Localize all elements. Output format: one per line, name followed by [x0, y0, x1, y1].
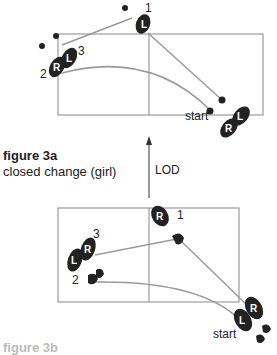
- step-label-3b: 3: [93, 227, 100, 241]
- svg-text:L: L: [71, 255, 77, 266]
- svg-text:R: R: [84, 244, 92, 255]
- step-label-1: 1: [145, 1, 152, 15]
- svg-text:R: R: [53, 62, 61, 73]
- figure-title: figure 3a: [3, 148, 57, 163]
- svg-text:R: R: [156, 211, 164, 222]
- figure-title-partial: figure 3b: [3, 340, 58, 355]
- foot-letter: L: [141, 19, 147, 30]
- start-label-a: start: [185, 109, 209, 123]
- figure-subtitle: closed change (girl): [3, 164, 116, 179]
- step-label-2: 2: [40, 67, 47, 81]
- svg-text:R: R: [225, 123, 233, 134]
- step-label-3: 3: [78, 44, 85, 58]
- svg-text:L: L: [239, 315, 245, 326]
- step-label-1b: 1: [177, 208, 184, 222]
- figure-3b-diagram: R R L R L 1 3 2 start: [58, 202, 271, 343]
- step-label-2b: 2: [72, 273, 79, 287]
- start-label-b: start: [213, 327, 237, 341]
- svg-text:R: R: [250, 303, 258, 314]
- svg-text:L: L: [66, 53, 72, 64]
- lod-label: LOD: [155, 163, 180, 177]
- lod-arrow: LOD: [146, 136, 180, 198]
- figure-3a-diagram: L L R L R 1 3 2 start: [39, 1, 263, 141]
- svg-text:L: L: [237, 111, 243, 122]
